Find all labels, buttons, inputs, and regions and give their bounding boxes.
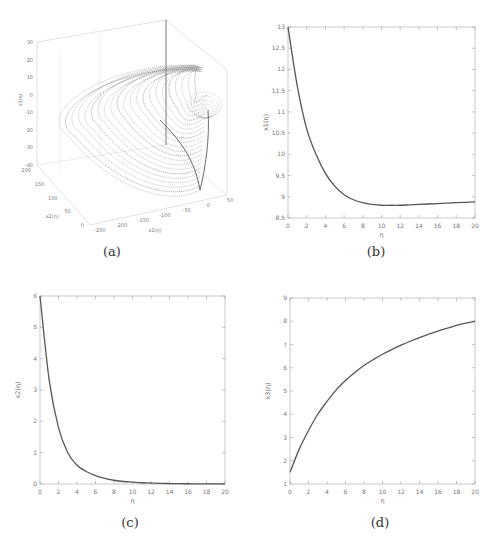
panel-a-3d-plot: 3020100-10-20-30-40200150100500-250-200-… (0, 0, 248, 240)
x-tick-label: 50 (227, 197, 233, 203)
x-tick-label: 4 (325, 488, 329, 495)
x-tick-label: 10 (379, 488, 387, 495)
caption-a: (a) (82, 244, 142, 259)
x1-vs-eta-plot: 024681012141618208.599.51010.51111.51212… (248, 0, 496, 240)
z-tick-label: -10 (25, 109, 33, 115)
x-tick-label: -250 (94, 227, 105, 233)
x-tick-label: 0 (288, 488, 292, 495)
x-tick-label: 14 (415, 222, 423, 229)
trajectory (124, 70, 203, 151)
y-tick-label: 12.5 (272, 44, 286, 51)
z-tick-label: -30 (25, 144, 33, 150)
y-tick-label: 4 (283, 410, 287, 417)
z-axis-label: x3(η) (17, 93, 24, 106)
x-tick-label: 18 (453, 488, 461, 495)
x-tick-label: -50 (183, 207, 191, 213)
trajectory (156, 67, 205, 129)
x-tick-label: 20 (471, 222, 479, 229)
trajectory (175, 67, 205, 116)
axes-box (288, 27, 475, 218)
x-tick-label: 8 (362, 488, 366, 495)
x3-vs-eta-plot: 02468101214161820123456789ηx3(η) (248, 270, 496, 510)
x-tick-label: 20 (471, 488, 479, 495)
y-tick-label: 4 (33, 355, 37, 362)
y-tick-label: 11.5 (272, 87, 286, 94)
y-tick-label: 100 (48, 195, 58, 201)
x-tick-label: 14 (166, 488, 174, 495)
axes-box (40, 296, 225, 484)
x-tick-label: 16 (434, 488, 442, 495)
panel-d-line-plot: 02468101214161820123456789ηx3(η) (248, 270, 496, 510)
x-tick-label: 10 (129, 488, 137, 495)
x-tick-label: 4 (323, 222, 327, 229)
y-tick-label: 10.5 (272, 129, 286, 136)
trajectory (104, 70, 201, 165)
x-tick-label: 10 (378, 222, 386, 229)
trajectory (85, 70, 201, 179)
x-tick-label: 18 (203, 488, 211, 495)
x-tick-label: 12 (397, 488, 405, 495)
trajectory (182, 71, 206, 111)
x-axis-label: η (130, 497, 134, 505)
x-tick-label: 0 (38, 488, 42, 495)
data-curve (290, 321, 475, 472)
y-tick-label: 11 (277, 108, 285, 115)
y-axis-label: x1(η) (262, 114, 270, 131)
y-tick-label: 200 (21, 167, 31, 173)
z-tick-label: -20 (25, 127, 33, 133)
z-tick-label: 10 (27, 74, 33, 80)
y-tick-label: 0 (33, 480, 37, 487)
caption-b: (b) (346, 244, 406, 259)
y-tick-label: 6 (283, 364, 287, 371)
trajectory (130, 68, 203, 147)
y-tick-label: 1 (33, 449, 37, 456)
trajectory (169, 69, 206, 120)
y-tick-label: 2 (33, 417, 37, 424)
trajectory (194, 67, 207, 102)
x-tick-label: 12 (396, 222, 404, 229)
y-tick-label: 8.5 (275, 214, 285, 221)
x-tick-label: 18 (452, 222, 460, 229)
trajectory (65, 69, 199, 192)
y-axis-label: x3(η) (264, 382, 272, 399)
z-tick-label: 20 (27, 57, 33, 63)
data-curve (288, 27, 475, 205)
y-tick-label: 8 (283, 317, 287, 324)
y-tick-label: 9.5 (275, 172, 285, 179)
x-tick-label: 2 (305, 222, 309, 229)
x-tick-label: 8 (361, 222, 365, 229)
z-tick-label: 30 (27, 39, 33, 45)
trajectory (91, 68, 201, 174)
y-tick-label: 9 (283, 294, 287, 301)
x-tick-label: 0 (207, 202, 210, 208)
x-tick-label: 16 (184, 488, 192, 495)
x-axis-label: x1(η) (148, 227, 161, 234)
y-tick-label: 3 (33, 386, 37, 393)
y-tick-label: 6 (33, 292, 37, 299)
x-tick-label: 0 (286, 222, 290, 229)
y-tick-label: 1 (283, 480, 287, 487)
x-tick-label: 12 (147, 488, 155, 495)
y-tick-label: 50 (64, 208, 70, 214)
z-tick-label: 0 (30, 92, 33, 98)
y-tick-label: 12 (277, 65, 285, 72)
y-tick-label: 7 (283, 341, 287, 348)
phase-portrait-3d: 3020100-10-20-30-40200150100500-250-200-… (0, 0, 248, 240)
x-tick-label: 4 (75, 488, 79, 495)
panel-c-line-plot: 024681012141618200123456ηx2(η) (0, 270, 248, 510)
x-tick-label: -200 (116, 222, 127, 228)
x-tick-label: 16 (434, 222, 442, 229)
y-tick-label: 13 (277, 23, 285, 30)
y-tick-label: 5 (33, 323, 37, 330)
axes-box (290, 298, 475, 484)
x-tick-label: -100 (159, 212, 170, 218)
y-tick-label: 2 (283, 457, 287, 464)
x-tick-label: 20 (221, 488, 229, 495)
y-tick-label: 3 (283, 434, 287, 441)
panel-b-line-plot: 024681012141618208.599.51010.51111.51212… (248, 0, 496, 240)
y-tick-label: 9 (281, 193, 285, 200)
y-tick-label: 150 (35, 181, 45, 187)
x-tick-label: 8 (112, 488, 116, 495)
caption-d: (d) (350, 515, 410, 530)
data-curve (40, 296, 225, 484)
